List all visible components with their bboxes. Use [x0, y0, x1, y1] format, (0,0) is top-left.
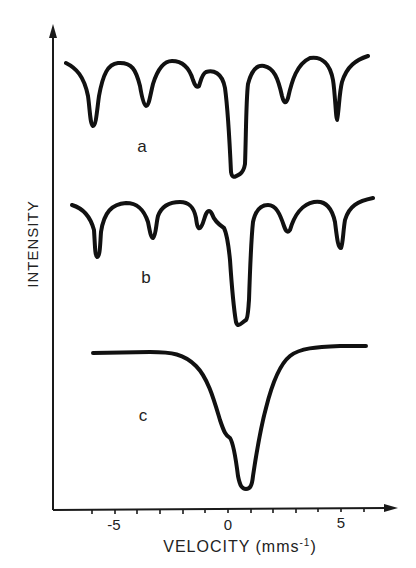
x-axis-arrow-icon: [384, 504, 398, 512]
spectrum-a-label: a: [137, 137, 147, 156]
spectrum-c-curve: [93, 346, 366, 489]
x-tick-label-5: 5: [337, 514, 345, 531]
spectrum-b-label: b: [141, 268, 150, 287]
spectrum-a-curve: [66, 56, 368, 177]
x-tick-label-0: 0: [224, 516, 232, 533]
y-axis-label: INTENSITY: [24, 200, 41, 287]
x-axis-label: VELOCITY (mms-1): [163, 537, 317, 555]
mossbauer-spectra-chart: -5 0 5 VELOCITY (mms-1) INTENSITY a b c: [0, 0, 416, 568]
spectrum-b-curve: [72, 198, 373, 325]
y-axis-arrow-icon: [49, 24, 57, 38]
x-tick-label-neg5: -5: [107, 516, 120, 533]
spectrum-c-label: c: [139, 406, 148, 425]
x-axis: [53, 508, 388, 510]
